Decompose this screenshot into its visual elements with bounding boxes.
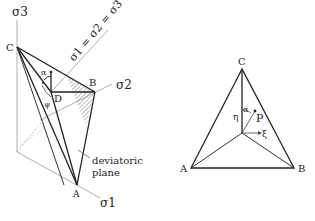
point-D-label: D	[54, 93, 62, 104]
alpha-label-left: α	[41, 68, 47, 77]
psi-label: ψ	[44, 100, 50, 109]
diagram-canvas: σ3 C B D A σ2 σ1 α ψ σ1 = σ2 = σ3 deviat…	[0, 0, 315, 221]
deviatoric-label-line2: plane	[92, 167, 120, 178]
edge-C-A-outer	[17, 47, 77, 185]
left-figure-3d-stress-space: σ3 C B D A σ2 σ1 α ψ σ1 = σ2 = σ3 deviat…	[6, 0, 143, 210]
eta-label: η	[233, 112, 238, 122]
hidden-edge	[20, 128, 44, 146]
edge-D-A	[51, 92, 77, 185]
hidden-edge	[17, 118, 45, 152]
point-B-label-right: B	[298, 163, 305, 174]
sigma1-axis	[17, 152, 100, 198]
alpha-label-right: α	[243, 105, 249, 114]
spoke-to-B	[242, 133, 294, 168]
point-C-label-right: C	[238, 56, 246, 67]
sigma3-label: σ3	[12, 5, 28, 19]
sigma1-label: σ1	[100, 196, 116, 210]
psi-dot	[42, 82, 44, 84]
right-figure-deviatoric-plane: C A B P α η ξ	[179, 56, 305, 174]
alpha-point	[50, 71, 53, 74]
xi-label: ξ	[262, 129, 267, 139]
point-B-label: B	[89, 77, 96, 88]
vector-OP	[242, 111, 255, 133]
point-C-label: C	[6, 42, 14, 53]
point-A-label-right: A	[179, 163, 188, 174]
sigma2-label: σ2	[116, 78, 132, 92]
point-P-label: P	[256, 112, 264, 125]
hydrostatic-axis-label: σ1 = σ2 = σ3	[66, 0, 125, 64]
deviatoric-label-line1: deviatoric	[92, 155, 143, 166]
spoke-to-A	[191, 133, 242, 168]
point-A-label: A	[72, 189, 80, 199]
